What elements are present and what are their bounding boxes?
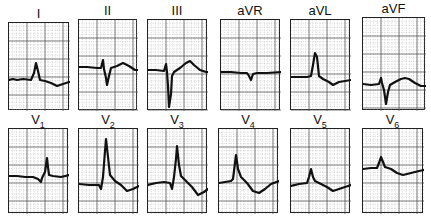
ecg-grid-panel <box>147 19 207 110</box>
lead-v3: V3 <box>147 112 207 213</box>
lead-avr: aVR <box>220 3 280 110</box>
lead-label: aVR <box>220 4 280 18</box>
ecg-grid-panel <box>8 22 69 110</box>
lead-ii: II <box>78 3 137 110</box>
lead-label: aVL <box>290 4 350 18</box>
ecg-grid-panel <box>220 19 280 110</box>
lead-avl: aVL <box>290 3 350 110</box>
ecg-grid-panel <box>290 19 350 110</box>
ecg-trace <box>221 72 281 80</box>
ecg-grid-panel <box>78 19 137 110</box>
lead-label: II <box>78 4 137 18</box>
ecg-trace <box>363 157 424 175</box>
ecg-grid-panel <box>362 128 423 213</box>
ecg-trace <box>9 63 70 86</box>
ecg-grid-panel <box>8 128 68 213</box>
lead-v4: V4 <box>218 112 278 213</box>
ecg-grid-panel <box>147 128 207 213</box>
lead-v2: V2 <box>78 112 138 213</box>
lead-avf: aVF <box>362 1 425 110</box>
ecg-trace <box>148 146 208 195</box>
ecg-trace <box>363 78 426 104</box>
lead-label: I <box>8 7 69 21</box>
ecg-trace <box>219 155 279 193</box>
ecg-grid-panel <box>362 17 425 110</box>
lead-label: aVF <box>362 2 425 16</box>
ecg-trace <box>291 53 351 85</box>
ecg-grid-panel <box>290 128 350 213</box>
lead-v5: V5 <box>290 112 350 213</box>
lead-v1: V1 <box>8 112 68 213</box>
lead-v6: V6 <box>362 112 423 213</box>
ecg-trace <box>148 61 208 107</box>
ecg-grid-panel <box>78 128 138 213</box>
ecg-trace <box>79 60 138 85</box>
lead-label: III <box>147 4 207 18</box>
lead-iii: III <box>147 3 207 110</box>
lead-i: I <box>8 6 69 110</box>
ecg-grid-panel <box>218 128 278 213</box>
